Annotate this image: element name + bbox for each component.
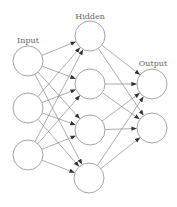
hidden-node-2 (75, 69, 105, 99)
hidden-node-3 (75, 115, 105, 145)
connection-arrow (102, 45, 140, 74)
hidden-layer-label: Hidden (75, 12, 105, 21)
input-layer-label: Input (17, 36, 40, 45)
neural-network-diagram: Input Hidden Output (0, 0, 177, 207)
connection-arrow (101, 138, 140, 169)
hidden-node-1 (75, 21, 105, 51)
hidden-node-4 (74, 163, 104, 193)
input-node-3 (13, 140, 43, 170)
connection-edges (35, 42, 143, 173)
connection-arrow (102, 93, 139, 119)
output-node-2 (137, 113, 167, 143)
input-node-1 (13, 46, 43, 76)
connection-arrow (105, 129, 136, 130)
connection-arrow (38, 72, 80, 118)
input-node-2 (13, 93, 43, 123)
connection-arrow (42, 42, 76, 56)
output-layer-label: Output (139, 59, 168, 68)
network-nodes (13, 21, 167, 193)
connection-arrow (102, 93, 139, 121)
connection-arrow (38, 48, 80, 97)
output-node-1 (137, 69, 167, 99)
connection-arrow (42, 160, 74, 172)
